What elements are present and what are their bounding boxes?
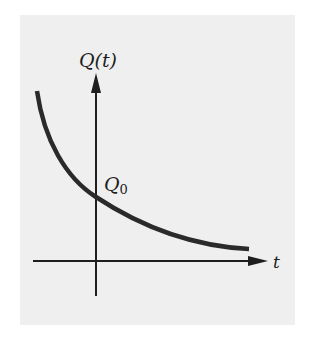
x-axis-arrow-icon <box>248 256 268 266</box>
y-axis-label: Q(t) <box>79 49 117 71</box>
intercept-main: Q <box>104 173 120 195</box>
y-axis-arrow-icon <box>91 73 101 93</box>
decay-curve <box>37 91 249 249</box>
intercept-label: Q0 <box>104 173 128 197</box>
intercept-subscript: 0 <box>120 182 128 197</box>
decay-chart: Q(t) t Q0 <box>0 0 312 340</box>
x-axis-label: t <box>273 252 280 272</box>
